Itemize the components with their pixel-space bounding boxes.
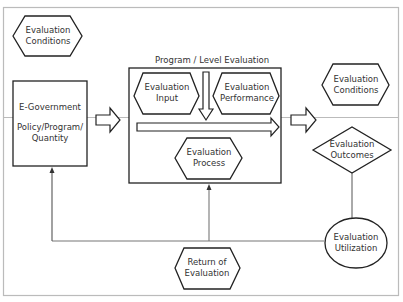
input-label: Evaluation Input [140,82,194,104]
label-line: Conditions [22,36,74,47]
label-line: Policy/Program/ [13,122,87,133]
utilization-label: Evaluation Utilization [326,232,386,254]
egov-label: E-Government Policy/Program/ Quantity [13,102,87,144]
label-line: Conditions [329,85,383,96]
label-line: Evaluation [22,25,74,36]
label-line: Return of [180,257,234,268]
label-line: Evaluation [326,232,386,243]
label-line: Input [140,93,194,104]
arrowhead-program-icon [207,184,212,190]
label-line: Evaluation [182,147,236,158]
label-spacer [13,113,87,122]
label-line: Quantity [13,133,87,144]
performance-label: Evaluation Performance [214,82,280,104]
arrowhead-egov-icon [50,167,55,173]
conditions-right-label: Evaluation Conditions [329,74,383,96]
label-line: Evaluation [325,139,379,150]
label-line: E-Government [13,102,87,113]
block-arrow-left-icon [96,108,120,132]
label-line: Utilization [326,243,386,254]
label-line: Evaluation [140,82,194,93]
label-line: Process [182,158,236,169]
label-line: Evaluation [329,74,383,85]
return-label: Return of Evaluation [180,257,234,279]
group-title: Program / Level Evaluation [155,55,269,66]
label-line: Evaluation [214,82,280,93]
label-line: Evaluation [180,268,234,279]
block-arrow-program-out-icon [291,108,316,132]
conditions-left-label: Evaluation Conditions [22,25,74,47]
label-line: Performance [214,93,280,104]
label-line: Outcomes [325,150,379,161]
process-label: Evaluation Process [182,147,236,169]
outcomes-label: Evaluation Outcomes [325,139,379,161]
